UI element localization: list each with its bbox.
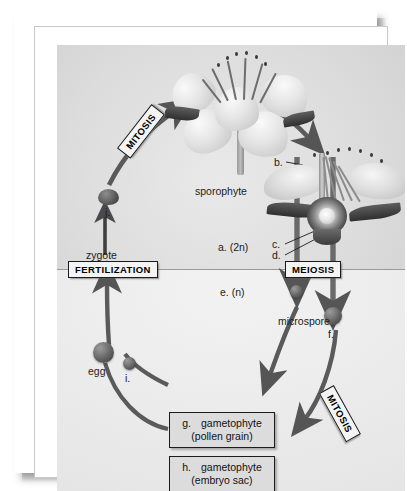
- anther: [255, 55, 258, 59]
- embryo-sac-box[interactable]: h.gametophyte (embryo sac): [169, 456, 275, 491]
- page-sheet: sporophyte zygote microspore egg a. (2n)…: [14, 10, 377, 473]
- zygote-cell: [98, 189, 119, 205]
- anther: [235, 52, 238, 56]
- haploid-ploidy-label: e. (n): [220, 286, 245, 298]
- cutaway-anther: [326, 151, 329, 155]
- microspore-cell: [290, 285, 303, 298]
- pollen-grain-box[interactable]: g.gametophyte (pollen grain): [169, 412, 275, 448]
- cutaway-anther: [380, 159, 383, 163]
- arrow-gametes-to-fertilization: [107, 283, 109, 345]
- figure-page: sporophyte zygote microspore egg a. (2n)…: [0, 0, 407, 491]
- figure-frame: sporophyte zygote microspore egg a. (2n)…: [34, 26, 388, 478]
- embryosac-box-detail: (embryo sac): [172, 474, 272, 487]
- egg-cell: [93, 342, 114, 363]
- embryosac-box-name: gametophyte: [201, 461, 262, 473]
- cutaway-anther: [370, 153, 373, 157]
- cutaway-anther: [348, 147, 351, 151]
- life-cycle-diagram: sporophyte zygote microspore egg a. (2n)…: [57, 45, 405, 491]
- flower-cutaway-illustration: [263, 145, 405, 257]
- ovule: [319, 208, 335, 224]
- sporophyte-label: sporophyte: [195, 185, 247, 197]
- zygote-label: zygote: [86, 249, 117, 261]
- microspore-label: microspore: [278, 315, 330, 327]
- marker-d-label: d.: [272, 249, 281, 261]
- arrow-embryosac-to-egg: [105, 363, 168, 429]
- pollen-box-name: gametophyte: [201, 417, 262, 429]
- stage-label-meiosis[interactable]: MEIOSIS: [285, 261, 341, 278]
- receptacle: [313, 229, 341, 245]
- anther: [217, 63, 220, 67]
- diploid-ploidy-label: a. (2n): [218, 241, 248, 253]
- cutaway-petal-right: [345, 159, 405, 204]
- marker-j-label: j.: [105, 206, 110, 218]
- pollen-box-detail: (pollen grain): [172, 430, 272, 443]
- embryosac-box-code: h.: [182, 461, 191, 473]
- anther: [264, 62, 267, 66]
- anther: [226, 56, 229, 60]
- marker-i-label: i.: [125, 372, 130, 384]
- cutaway-sepal-right: [348, 202, 401, 221]
- marker-b-label: b.: [274, 156, 283, 168]
- cutaway-petal-left: [261, 160, 328, 203]
- stage-label-fertilization[interactable]: FERTILIZATION: [68, 261, 158, 278]
- cutaway-anther: [359, 149, 362, 153]
- sperm-cell-i: [123, 357, 136, 370]
- pollen-box-code: g.: [182, 417, 191, 429]
- cutaway-anther: [313, 153, 316, 157]
- anther: [245, 51, 248, 55]
- cutaway-anther: [337, 148, 340, 152]
- marker-f-label: f.: [328, 328, 334, 340]
- egg-label: egg: [88, 365, 106, 377]
